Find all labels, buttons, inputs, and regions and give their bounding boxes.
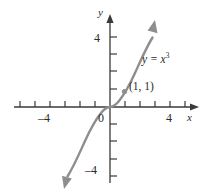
x-axis-ticks (20, 101, 185, 107)
y-axis-arrowhead (106, 14, 113, 23)
point-coordinate-label: (1, 1) (129, 81, 154, 93)
x-axis-label: x (187, 112, 192, 123)
x-tick-label-four: 4 (166, 112, 172, 124)
function-equation-label: y = x3 (142, 52, 169, 65)
curve-arrowhead-top (148, 20, 158, 33)
equation-base: y = x (142, 53, 166, 65)
curve-arrowhead-bottom (62, 176, 72, 189)
graph-canvas (0, 0, 207, 191)
y-tick-label-four: 4 (94, 32, 100, 44)
y-tick-label-neg-four: –4 (85, 164, 97, 176)
point-marker-1-1 (122, 89, 127, 94)
equation-exponent: 3 (166, 51, 170, 60)
x-tick-label-neg-four: –4 (38, 112, 50, 124)
origin-label: 0 (98, 112, 104, 124)
y-axis-label: y (98, 7, 103, 18)
cubic-function-graph: –4 4 x 4 –4 y 0 y = x3 (1, 1) (0, 0, 207, 191)
x-axis-arrowhead (190, 103, 199, 110)
